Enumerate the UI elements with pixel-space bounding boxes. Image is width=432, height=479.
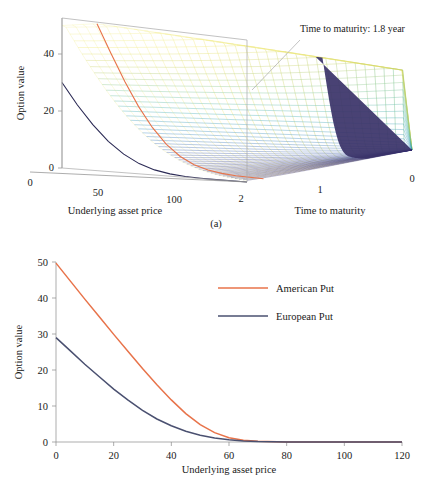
y-axis: 2 1 0 Time to maturity xyxy=(238,173,414,216)
figure-caption-a: (a) xyxy=(0,213,432,231)
z-tick-0: 0 xyxy=(49,162,54,173)
option-value-surface xyxy=(62,24,412,182)
series-european-put xyxy=(56,338,402,442)
x-axis: 0 50 100 Underlying asset price xyxy=(27,172,247,216)
y-tick-label: 20 xyxy=(38,365,49,376)
x-tick-label: 0 xyxy=(53,450,58,461)
x-tick-label: 100 xyxy=(336,450,352,461)
x-tick-label: 60 xyxy=(224,450,235,461)
y-tick-0: 0 xyxy=(409,173,414,184)
z-axis-title: Option value xyxy=(15,65,26,120)
chart-axes xyxy=(56,262,402,442)
legend-label-0: American Put xyxy=(276,283,334,294)
x-axis-ticks: 020406080100120 xyxy=(53,442,410,461)
x-tick-50: 50 xyxy=(93,187,104,198)
panel-a-3d-surface: 0 20 40 Option value 0 50 100 Underlying… xyxy=(0,0,432,236)
panel-b-line-chart: 01020304050 Option value 020406080100120… xyxy=(0,240,432,479)
z-tick-20: 20 xyxy=(44,105,55,116)
line-chart-svg: 01020304050 Option value 020406080100120… xyxy=(0,240,432,479)
surface-plot-svg: 0 20 40 Option value 0 50 100 Underlying… xyxy=(0,0,432,236)
x-axis-title: Underlying asset price xyxy=(182,464,277,475)
x-tick-0: 0 xyxy=(27,177,32,188)
chart-legend: American PutEuropean Put xyxy=(218,283,334,322)
y-tick-label: 0 xyxy=(43,437,48,448)
y-axis-title: Option value xyxy=(13,324,24,379)
y-tick-label: 40 xyxy=(38,293,49,304)
y-tick-1: 1 xyxy=(317,184,322,195)
series-curves xyxy=(56,263,402,442)
y-tick-label: 10 xyxy=(38,401,49,412)
y-axis-ticks: 01020304050 xyxy=(38,257,57,448)
x-tick-label: 20 xyxy=(108,450,119,461)
y-tick-label: 30 xyxy=(38,329,49,340)
x-tick-label: 80 xyxy=(281,450,292,461)
z-tick-40: 40 xyxy=(44,48,55,59)
z-axis: 0 20 40 Option value xyxy=(15,18,62,173)
series-american-put xyxy=(56,263,402,442)
y-tick-label: 50 xyxy=(38,257,49,268)
x-tick-100: 100 xyxy=(166,194,182,205)
y-tick-2: 2 xyxy=(238,193,243,204)
x-tick-label: 120 xyxy=(394,450,410,461)
caption-a-text: (a) xyxy=(210,218,222,229)
x-tick-label: 40 xyxy=(166,450,177,461)
legend-label-1: European Put xyxy=(276,311,333,322)
annotation-text: Time to maturity: 1.8 year xyxy=(300,23,406,34)
